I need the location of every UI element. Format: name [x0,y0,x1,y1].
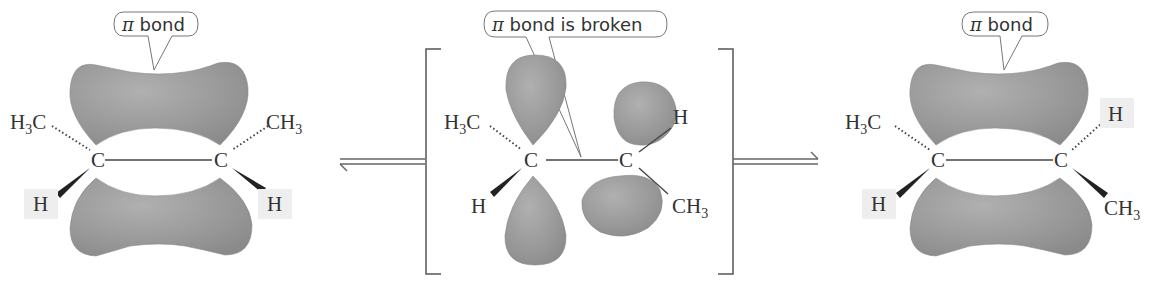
pi-orbital-bottom-lobe [70,178,252,256]
pi-bond-callout: π bond [962,12,1048,70]
left-bracket [426,49,441,274]
pi-orbital-top-lobe [70,62,248,145]
svg-text:π bond is broken: π bond is broken [491,14,642,35]
reaction-diagram: π bond C C H3C CH3 H H π bond is broke [0,0,1161,292]
pi-bond-callout: π bond [114,12,198,70]
svg-text:π bond: π bond [969,14,1033,35]
structure-cis-2-butene: π bond C C H3C CH3 H H [10,12,302,256]
svg-text:π bond: π bond [121,14,185,35]
p-orbital-right-top [614,82,676,145]
right-bracket [718,49,733,274]
methyl-group-bottom-right: CH3 [672,194,708,221]
p-orbital-left-top [506,55,566,145]
hydrogen-atom-bottom-left: H [871,192,886,216]
structure-trans-2-butene: π bond C C H3C H H CH3 [845,12,1140,256]
hydrogen-atom-top-right: H [673,105,688,129]
hydrogen-atom-bottom-left: H [33,192,48,216]
carbon-atom-left: C [931,148,945,172]
pi-orbital-top-lobe [910,62,1088,145]
p-orbital-left-bottom [505,176,566,265]
carbon-atom-right: C [214,148,228,172]
hydrogen-atom-top-right: H [1108,102,1123,126]
p-orbital-right-bottom [582,175,662,236]
carbon-atom-right: C [619,148,633,172]
equilibrium-arrow-2 [733,152,818,164]
carbon-atom-left: C [524,148,538,172]
methyl-group-top-left: H3C [845,110,881,137]
structure-transition-state: π bond is broken C C H3C H H CH3 [426,11,733,274]
methyl-group-bottom-right: CH3 [1104,196,1140,223]
pi-orbital-bottom-lobe [910,178,1092,256]
equilibrium-arrow-1 [340,159,425,171]
hydrogen-atom-bottom-right: H [267,192,282,216]
carbon-atom-left: C [91,148,105,172]
methyl-group-top-left: H3C [10,110,46,137]
carbon-atom-right: C [1054,148,1068,172]
hydrogen-atom-bottom-left: H [471,194,486,218]
methyl-group-top-right: CH3 [266,110,302,137]
methyl-group-top-left: H3C [444,110,480,137]
